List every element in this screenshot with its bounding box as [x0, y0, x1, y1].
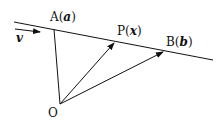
segment-o-a — [54, 29, 60, 104]
vector-o-p-arrow — [60, 43, 114, 104]
origin-label: O — [48, 106, 58, 120]
point-a-label: A(a) — [49, 10, 76, 24]
svg-text:B(b): B(b) — [166, 35, 193, 49]
vector-line-diagram: v A(a) P(x) B(b) O — [0, 0, 223, 130]
vector-o-b-arrow — [60, 52, 163, 104]
direction-vector-label: v — [16, 31, 24, 45]
svg-text:A(a): A(a) — [49, 10, 76, 24]
point-p-label: P(x) — [117, 24, 142, 38]
point-b-label: B(b) — [166, 35, 193, 49]
svg-text:P(x): P(x) — [117, 24, 142, 38]
